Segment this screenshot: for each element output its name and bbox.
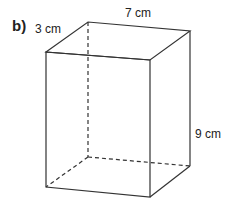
top-face (46, 22, 190, 60)
hidden-edge-depth (46, 157, 88, 187)
bottom-right-edge (150, 166, 190, 197)
hidden-edge-width (88, 157, 190, 166)
front-face (46, 52, 150, 197)
cuboid-diagram (0, 0, 235, 200)
